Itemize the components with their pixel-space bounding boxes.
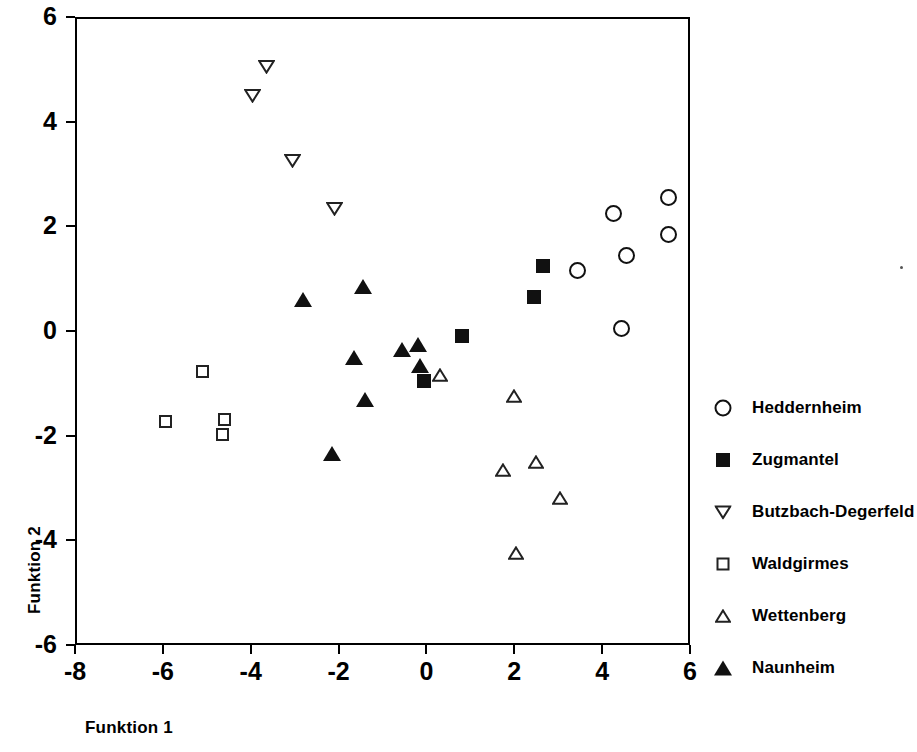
y-tick-mark <box>66 121 75 123</box>
y-tick-mark <box>66 539 75 541</box>
y-tick-label: 0 <box>11 318 57 343</box>
print-speck <box>900 266 903 269</box>
legend-marker-square-open-icon <box>712 554 734 574</box>
x-tick-mark <box>338 645 340 654</box>
x-tick-mark <box>162 645 164 654</box>
x-tick-mark <box>601 645 603 654</box>
x-tick-mark <box>689 645 691 654</box>
legend-label: Zugmantel <box>752 450 839 470</box>
y-tick-label: -6 <box>11 632 57 657</box>
legend-item-butzbach-degerfeld: Butzbach-Degerfeld <box>712 486 917 538</box>
legend-item-waldgirmes: Waldgirmes <box>712 538 917 590</box>
legend: HeddernheimZugmantelButzbach-DegerfeldWa… <box>712 382 917 694</box>
legend-marker-triangle-up-open-icon <box>712 606 734 626</box>
x-tick-label: 4 <box>580 659 624 684</box>
y-tick-label: 2 <box>11 213 57 238</box>
x-tick-mark <box>74 645 76 654</box>
y-tick-mark <box>66 16 75 18</box>
x-tick-mark <box>425 645 427 654</box>
scatter-plot-figure: -6-4-20246-8-6-4-20246 Funktion 2 Funkti… <box>0 0 917 752</box>
x-tick-label: 6 <box>668 659 712 684</box>
legend-label: Waldgirmes <box>752 554 849 574</box>
legend-label: Heddernheim <box>752 398 862 418</box>
x-tick-mark <box>513 645 515 654</box>
x-tick-label: -4 <box>229 659 273 684</box>
y-tick-label: 4 <box>11 109 57 134</box>
x-tick-label: 0 <box>404 659 448 684</box>
x-tick-mark <box>250 645 252 654</box>
y-tick-mark <box>66 225 75 227</box>
y-tick-label: -2 <box>11 423 57 448</box>
legend-marker-square-filled-icon <box>712 450 734 470</box>
legend-label: Naunheim <box>752 658 835 678</box>
legend-label: Butzbach-Degerfeld <box>752 502 914 522</box>
legend-marker-triangle-up-filled-icon <box>712 658 734 678</box>
legend-marker-triangle-down-open-icon <box>712 502 734 522</box>
x-tick-label: -8 <box>53 659 97 684</box>
plot-area <box>75 17 690 645</box>
x-axis-label: Funktion 1 <box>85 718 173 738</box>
legend-item-zugmantel: Zugmantel <box>712 434 917 486</box>
y-tick-mark <box>66 330 75 332</box>
legend-item-wettenberg: Wettenberg <box>712 590 917 642</box>
legend-item-naunheim: Naunheim <box>712 642 917 694</box>
y-axis-label: Funktion 2 <box>25 505 45 635</box>
x-tick-label: -2 <box>317 659 361 684</box>
x-tick-label: -6 <box>141 659 185 684</box>
legend-label: Wettenberg <box>752 606 846 626</box>
legend-item-heddernheim: Heddernheim <box>712 382 917 434</box>
y-tick-label: 6 <box>11 4 57 29</box>
y-tick-mark <box>66 435 75 437</box>
x-tick-label: 2 <box>492 659 536 684</box>
legend-marker-circle-open-icon <box>712 398 734 418</box>
